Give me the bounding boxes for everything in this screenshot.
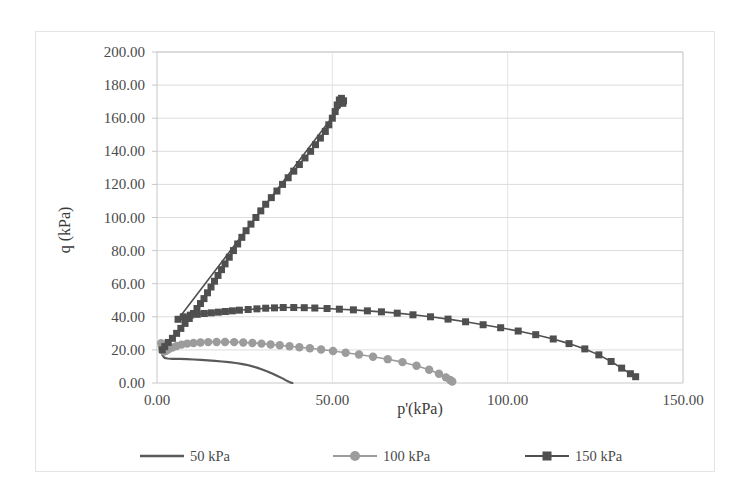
data-point-marker [196,338,204,346]
data-point-marker [369,352,377,360]
data-point-marker [230,247,237,254]
data-point-marker [208,309,215,316]
data-point-marker [632,373,639,380]
y-tick-label: 140.00 [104,143,145,159]
data-point-marker [222,308,229,315]
data-point-marker [329,347,337,355]
data-point-marker [248,339,256,347]
data-point-marker [355,350,363,358]
data-point-marker [448,377,456,385]
data-point-marker [285,174,292,181]
data-point-marker [252,214,259,221]
data-point-marker [317,345,325,353]
legend-circle-marker-icon [350,451,360,461]
data-point-marker [268,194,275,201]
data-point-marker [427,313,434,320]
data-point-marker [276,341,284,349]
data-point-marker [550,335,557,342]
data-point-marker [301,154,308,161]
data-point-marker [180,313,187,320]
data-point-marker [212,338,220,346]
data-point-marker [279,181,286,188]
data-point-marker [296,161,303,168]
data-point-marker [445,316,452,323]
data-point-marker [350,306,357,313]
legend-square-marker-icon [543,452,552,461]
data-point-marker [412,362,420,370]
legend-item-100-kpa[interactable]: 100 kPa [333,448,431,464]
data-point-marker [266,340,274,348]
y-tick-label: 160.00 [104,110,145,126]
y-tick-label: 180.00 [104,77,145,93]
data-point-marker [312,141,319,148]
data-point-marker [497,324,504,331]
data-point-marker [301,304,308,311]
series-100-kpa [157,338,456,386]
data-point-marker [329,115,336,122]
series-50-kpa [162,355,292,383]
data-point-marker [201,310,208,317]
data-point-marker [245,306,252,313]
data-point-marker [290,304,297,311]
series-150-kpa [159,95,639,380]
data-point-marker [425,366,433,374]
data-point-marker [364,307,371,314]
y-tick-label: 60.00 [111,276,145,292]
x-axis-tick-labels: 0.0050.00100.00150.00 [144,52,704,408]
y-tick-label: 20.00 [111,342,145,358]
data-point-marker [515,328,522,335]
data-point-marker [262,305,269,312]
data-point-marker [618,365,625,372]
data-point-marker [566,340,573,347]
legend-item-150-kpa[interactable]: 150 kPa [525,448,623,464]
data-point-marker [239,338,247,346]
y-tick-label: 0.00 [119,375,145,391]
data-point-marker [336,306,343,313]
data-point-marker [236,307,243,314]
data-point-marker [398,358,406,366]
y-axis-title: q (kPa) [56,207,74,254]
data-point-marker [608,358,615,365]
data-point-marker [311,305,318,312]
data-point-marker [384,355,392,363]
data-point-marker [341,349,349,357]
data-point-marker [322,128,329,135]
data-series-layer [157,95,639,386]
data-point-marker [595,351,602,358]
series-line [162,355,292,383]
legend-label: 50 kPa [190,448,230,464]
data-point-marker [378,308,385,315]
y-axis-tick-labels: 0.0020.0040.0060.0080.00100.00120.00140.… [104,44,157,391]
legend-item-50-kpa[interactable]: 50 kPa [140,448,230,464]
legend-label: 150 kPa [575,448,623,464]
data-point-marker [194,311,201,318]
data-point-marker [229,307,236,314]
data-point-marker [221,338,229,346]
data-point-marker [295,343,303,351]
y-tick-label: 80.00 [111,243,145,259]
gridlines [157,52,683,383]
data-point-marker [317,135,324,142]
x-axis-title: p'(kPa) [397,400,443,418]
data-point-marker [285,342,293,350]
data-point-marker [187,312,194,319]
x-tick-label: 150.00 [662,392,703,408]
legend-label: 100 kPa [383,448,431,464]
data-point-marker [262,201,269,208]
data-point-marker [306,344,314,352]
y-tick-label: 40.00 [111,309,145,325]
data-point-marker [226,254,233,261]
data-point-marker [257,207,264,214]
y-tick-label: 100.00 [104,210,145,226]
x-tick-label: 0.00 [144,392,170,408]
data-point-marker [271,304,278,311]
data-point-marker [215,309,222,316]
data-point-marker [339,100,346,107]
data-point-marker [280,304,287,311]
data-point-marker [480,321,487,328]
x-tick-label: 50.00 [315,392,349,408]
data-point-marker [532,331,539,338]
data-point-marker [247,221,254,228]
series-line [162,98,635,376]
data-point-marker [462,318,469,325]
